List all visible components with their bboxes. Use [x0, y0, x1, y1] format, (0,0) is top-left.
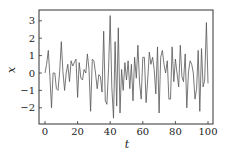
x-tick-label: 60 [136, 126, 149, 137]
x-tick-label: 20 [71, 126, 84, 137]
y-tick-label: 0 [29, 68, 35, 79]
y-tick-label: 1 [29, 50, 35, 61]
y-tick-label: −1 [20, 85, 35, 96]
y-tick-label: 3 [29, 15, 35, 26]
x-tick-label: 0 [42, 126, 48, 137]
y-axis-label: x [5, 66, 18, 73]
line-chart: 020406080100 −2−10123 t x [0, 0, 226, 160]
x-tick-label: 80 [169, 126, 182, 137]
y-tick-label: −2 [20, 102, 35, 113]
x-tick-label: 40 [104, 126, 117, 137]
y-tick-label: 2 [29, 33, 35, 44]
x-axis-label: t [125, 138, 130, 151]
x-tick-label: 100 [198, 126, 217, 137]
